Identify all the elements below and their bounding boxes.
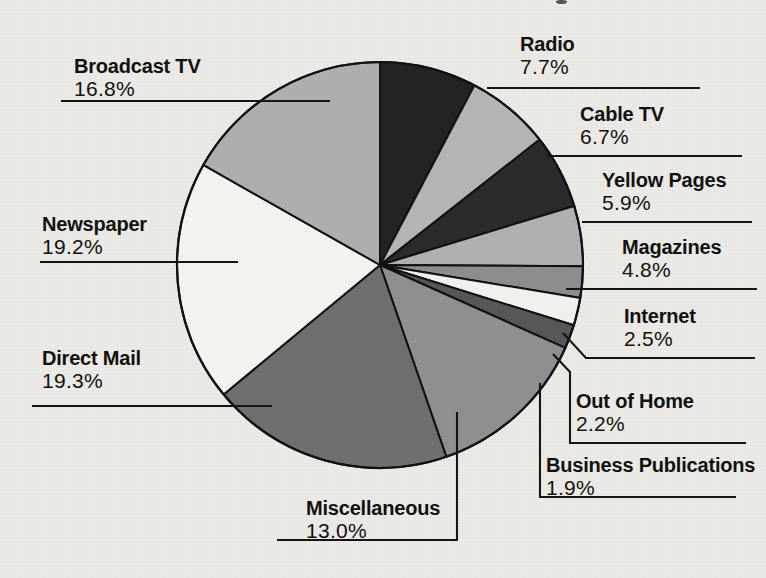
slice-name-cable-tv: Cable TV <box>580 104 664 125</box>
slice-label-radio: Radio 7.7% <box>520 34 575 78</box>
slice-percent-miscellaneous: 13.0% <box>306 520 440 542</box>
slice-name-business-publications: Business Publications <box>546 455 755 476</box>
slice-percent-newspaper: 19.2% <box>42 236 147 258</box>
slice-percent-direct-mail: 19.3% <box>42 370 141 392</box>
slice-percent-out-of-home: 2.2% <box>576 413 694 435</box>
slice-percent-magazines: 4.8% <box>622 259 721 281</box>
slice-percent-broadcast-tv: 16.8% <box>74 78 201 100</box>
slice-name-radio: Radio <box>520 34 575 55</box>
slice-name-broadcast-tv: Broadcast TV <box>74 56 201 77</box>
slice-percent-yellow-pages: 5.9% <box>602 192 726 214</box>
slice-name-miscellaneous: Miscellaneous <box>306 498 440 519</box>
slice-name-yellow-pages: Yellow Pages <box>602 170 726 191</box>
slice-name-direct-mail: Direct Mail <box>42 348 141 369</box>
slice-percent-radio: 7.7% <box>520 56 575 78</box>
slice-label-magazines: Magazines 4.8% <box>622 237 721 281</box>
slice-label-out-of-home: Out of Home 2.2% <box>576 391 694 435</box>
slice-label-broadcast-tv: Broadcast TV 16.8% <box>74 56 201 100</box>
slice-label-business-publications: Business Publications 1.9% <box>546 455 755 499</box>
slice-name-out-of-home: Out of Home <box>576 391 694 412</box>
slice-percent-business-publications: 1.9% <box>546 477 755 499</box>
slice-label-miscellaneous: Miscellaneous 13.0% <box>306 498 440 542</box>
pie-chart-figure: Broadcast TV 16.8% Newspaper 19.2% Direc… <box>0 0 766 578</box>
slice-label-newspaper: Newspaper 19.2% <box>42 214 147 258</box>
pie-slices-group <box>177 62 583 468</box>
slice-name-newspaper: Newspaper <box>42 214 147 235</box>
slice-name-magazines: Magazines <box>622 237 721 258</box>
slice-name-internet: Internet <box>624 306 696 327</box>
slice-percent-cable-tv: 6.7% <box>580 126 664 148</box>
slice-label-direct-mail: Direct Mail 19.3% <box>42 348 141 392</box>
slice-percent-internet: 2.5% <box>624 328 696 350</box>
slice-label-cable-tv: Cable TV 6.7% <box>580 104 664 148</box>
slice-label-internet: Internet 2.5% <box>624 306 696 350</box>
slice-label-yellow-pages: Yellow Pages 5.9% <box>602 170 726 214</box>
